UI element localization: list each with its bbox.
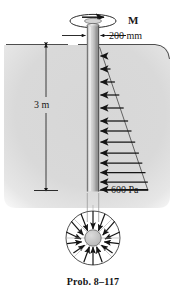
depth-label: 3 m <box>34 100 49 110</box>
figure-caption: Prob. 8–117 <box>0 276 186 287</box>
plan-view <box>66 205 120 265</box>
pipe-shaft <box>87 26 99 192</box>
diameter-label: 200 mm <box>109 31 142 41</box>
plan-pipe-section <box>85 230 101 246</box>
problem-figure: M 200 mm 3 m 600 Pa Prob. 8–117 <box>0 0 186 298</box>
figure-canvas <box>0 0 186 298</box>
moment-label: M <box>128 15 138 26</box>
pressure-label: 600 Pa <box>111 185 139 195</box>
